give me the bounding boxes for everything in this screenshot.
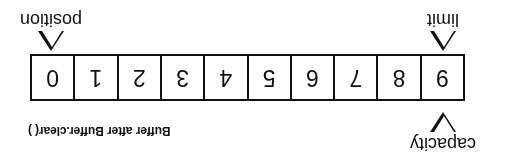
triangle-down-icon: [430, 112, 456, 132]
buffer-cell: 1: [73, 56, 116, 99]
buffer-cell-index: 3: [176, 66, 189, 89]
buffer-cell-index: 5: [263, 66, 276, 89]
buffer-cell-index: 1: [90, 66, 103, 89]
capacity-marker: capacity: [383, 112, 503, 153]
buffer-cell: 3: [160, 56, 203, 99]
buffer-cell: 0: [32, 56, 73, 99]
buffer-cell-index: 0: [46, 66, 59, 89]
buffer-cell: 7: [333, 56, 376, 99]
buffer-cell-index: 2: [133, 66, 146, 89]
buffer-cell-index: 9: [436, 66, 449, 89]
buffer-cell-index: 8: [393, 66, 406, 89]
rotated-figure-group: Buffer after Buffer.clear( ) capacity 9 …: [0, 0, 513, 159]
buffer-cell-index: 7: [349, 66, 362, 89]
triangle-up-icon: [430, 31, 456, 51]
buffer-cell: 6: [290, 56, 333, 99]
triangle-up-icon: [38, 31, 64, 51]
capacity-marker-label: capacity: [383, 134, 503, 153]
buffer-cell: 8: [376, 56, 419, 99]
buffer-cells-table: 9 8 7 6 5 4 3 2 1 0: [30, 54, 465, 101]
buffer-cell: 2: [117, 56, 160, 99]
limit-marker: limit: [383, 10, 503, 51]
figure-canvas: Buffer after Buffer.clear( ) capacity 9 …: [0, 0, 513, 159]
position-marker-label: position: [0, 10, 111, 29]
buffer-cell: 5: [247, 56, 290, 99]
figure-caption: Buffer after Buffer.clear( ): [28, 124, 223, 138]
position-marker: position: [0, 10, 111, 51]
buffer-cell-index: 4: [219, 66, 232, 89]
buffer-cell: 4: [203, 56, 246, 99]
buffer-cell: 9: [420, 56, 463, 99]
buffer-cell-index: 6: [306, 66, 319, 89]
limit-marker-label: limit: [383, 10, 503, 29]
